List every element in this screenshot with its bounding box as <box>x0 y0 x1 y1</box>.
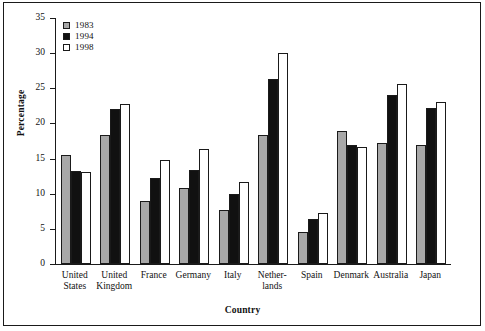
legend-label: 1994 <box>75 31 94 42</box>
bar-1994 <box>150 178 160 264</box>
legend-item-1983: 1983 <box>63 20 94 31</box>
bar-1983 <box>416 145 426 264</box>
legend-label: 1998 <box>75 42 94 53</box>
bar-1983 <box>377 143 387 264</box>
bar-group <box>377 18 407 264</box>
y-axis-tick-label: 15 <box>19 154 45 164</box>
legend-item-1998: 1998 <box>63 42 94 53</box>
y-axis-tick-label: 30 <box>19 48 45 58</box>
bar-group <box>61 18 91 264</box>
y-axis-tick-label: 25 <box>19 83 45 93</box>
bar-1994 <box>426 108 436 264</box>
bar-1998 <box>81 172 91 264</box>
bar-group <box>337 18 367 264</box>
bar-1983 <box>140 201 150 264</box>
bar-1994 <box>71 171 81 264</box>
y-axis-label: Percentage <box>16 58 26 168</box>
x-axis-category-label: Japan <box>405 270 457 281</box>
y-axis-tick <box>50 18 55 19</box>
bar-group <box>179 18 209 264</box>
y-axis-line <box>55 18 56 265</box>
bar-1998 <box>318 213 328 264</box>
y-axis-tick <box>50 264 55 265</box>
bar-1998 <box>199 149 209 264</box>
bar-1998 <box>120 104 130 264</box>
y-axis-tick-label: 35 <box>19 13 45 23</box>
bar-1983 <box>258 135 268 264</box>
chart-figure: Percentage 05101520253035United StatesUn… <box>0 0 485 331</box>
y-axis-tick <box>50 229 55 230</box>
bar-1994 <box>387 95 397 264</box>
legend-item-1994: 1994 <box>63 31 94 42</box>
bar-1994 <box>229 194 239 264</box>
bar-1994 <box>110 109 120 264</box>
bar-1983 <box>298 232 308 264</box>
bar-group <box>100 18 130 264</box>
bar-group <box>140 18 170 264</box>
bar-1998 <box>160 160 170 264</box>
x-axis-label: Country <box>0 305 485 315</box>
y-axis-tick-label: 10 <box>19 189 45 199</box>
bar-1983 <box>61 155 71 264</box>
bar-1998 <box>357 147 367 264</box>
bar-1998 <box>278 53 288 264</box>
chart-legend: 198319941998 <box>63 20 94 53</box>
bar-1983 <box>179 188 189 264</box>
bar-1983 <box>337 131 347 264</box>
y-axis-tick <box>50 88 55 89</box>
bar-group <box>298 18 328 264</box>
y-axis-tick <box>50 53 55 54</box>
bar-1998 <box>436 102 446 264</box>
y-axis-tick-label: 5 <box>19 224 45 234</box>
bar-1983 <box>219 210 229 264</box>
legend-swatch-icon <box>63 33 70 40</box>
legend-swatch-icon <box>63 44 70 51</box>
plot-area: 05101520253035United StatesUnited Kingdo… <box>55 18 450 264</box>
bar-1994 <box>268 79 278 264</box>
x-axis-line <box>55 264 451 265</box>
bar-1998 <box>397 84 407 264</box>
y-axis-tick <box>50 159 55 160</box>
bar-1983 <box>100 135 110 264</box>
bar-1998 <box>239 182 249 264</box>
y-axis-tick <box>50 194 55 195</box>
bar-1994 <box>189 170 199 264</box>
legend-swatch-icon <box>63 22 70 29</box>
y-axis-tick-label: 0 <box>19 259 45 269</box>
bar-group <box>416 18 446 264</box>
bar-1994 <box>347 145 357 264</box>
y-axis-tick <box>50 123 55 124</box>
legend-label: 1983 <box>75 20 94 31</box>
bar-1994 <box>308 219 318 264</box>
y-axis-tick-label: 20 <box>19 118 45 128</box>
bar-group <box>258 18 288 264</box>
bar-group <box>219 18 249 264</box>
